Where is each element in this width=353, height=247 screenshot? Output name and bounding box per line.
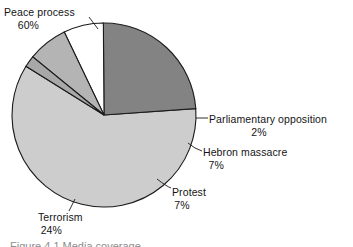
- pie-label-peace-process-name: Peace process: [4, 6, 75, 19]
- pie-slice-terrorism[interactable]: [103, 23, 195, 115]
- pie-label-protest: Protest 7%: [172, 186, 206, 211]
- pie-label-hebron-massacre-name: Hebron massacre: [203, 146, 287, 159]
- pie-label-parliamentary-opposition: Parliamentary opposition 2%: [209, 113, 327, 138]
- pie-label-parliamentary-opposition-name: Parliamentary opposition: [209, 113, 327, 126]
- pie-label-protest-value: 7%: [172, 199, 206, 212]
- pie-label-hebron-massacre: Hebron massacre 7%: [203, 146, 287, 171]
- pie-label-peace-process-value: 60%: [4, 19, 75, 32]
- pie-label-hebron-massacre-value: 7%: [203, 159, 287, 172]
- pie-label-terrorism-value: 24%: [38, 224, 83, 237]
- figure-caption: Figure 4.1 Media coverage: [10, 240, 353, 247]
- pie-label-terrorism: Terrorism 24%: [38, 211, 83, 236]
- pie-label-peace-process: Peace process 60%: [4, 6, 75, 31]
- pie-label-protest-name: Protest: [172, 186, 206, 199]
- pie-chart-figure: Peace process 60% Parliamentary oppositi…: [0, 0, 353, 247]
- pie-label-terrorism-name: Terrorism: [38, 211, 83, 224]
- pie-label-parliamentary-opposition-value: 2%: [209, 126, 327, 139]
